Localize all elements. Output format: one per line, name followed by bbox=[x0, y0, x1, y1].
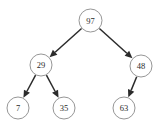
tree-edge bbox=[128, 77, 137, 98]
tree-node[interactable]: 48 bbox=[130, 55, 152, 77]
tree-node-label: 97 bbox=[86, 16, 95, 26]
tree-edge-line bbox=[131, 77, 137, 91]
tree-node[interactable]: 29 bbox=[30, 54, 52, 76]
tree-node-label: 48 bbox=[137, 61, 146, 71]
tree-node-label: 7 bbox=[16, 103, 20, 113]
tree-edge bbox=[99, 29, 132, 59]
tree-edge-line bbox=[55, 29, 81, 53]
tree-node[interactable]: 97 bbox=[79, 9, 102, 32]
tree-node[interactable]: 63 bbox=[113, 97, 135, 119]
tree-edge-line bbox=[99, 29, 126, 54]
tree-edge-line bbox=[46, 75, 55, 91]
tree-edge bbox=[23, 75, 35, 98]
tree-edge-line bbox=[27, 75, 36, 91]
tree-node[interactable]: 35 bbox=[53, 97, 75, 119]
tree-nodes-layer: 97294873563 bbox=[7, 9, 152, 119]
tree-node-label: 29 bbox=[37, 60, 46, 70]
tree-edge bbox=[46, 75, 58, 98]
tree-node[interactable]: 7 bbox=[7, 97, 29, 119]
binary-tree-diagram: 97294873563 bbox=[0, 0, 164, 126]
tree-canvas: 97294873563 bbox=[0, 0, 164, 126]
tree-node-label: 35 bbox=[60, 103, 69, 113]
tree-node-label: 63 bbox=[120, 103, 129, 113]
tree-edge bbox=[50, 29, 82, 58]
